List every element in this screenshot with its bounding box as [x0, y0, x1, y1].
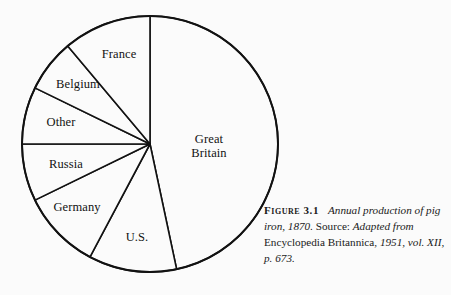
figure-caption: Figure 3.1Annual production of pig iron,… [264, 203, 448, 267]
pie-slice-label: France [102, 47, 137, 61]
figure-container: Great BritainU.S.GermanyRussiaOtherBelgi… [0, 0, 451, 295]
pie-slice-label: Other [47, 115, 76, 129]
caption-source-publication: Encyclopedia Britannica, [264, 236, 380, 248]
pie-slice-group [22, 16, 278, 272]
pie-slice-label: Great Britain [191, 132, 226, 160]
pie-slice-label: Germany [53, 200, 100, 214]
caption-source-adapted-from: Adapted from [353, 220, 414, 232]
figure-number-label: Figure 3.1 [264, 204, 319, 216]
pie-slice-label: U.S. [126, 230, 149, 244]
pie-slice-label: Russia [49, 157, 83, 171]
pie-slice-label: Belgium [56, 77, 100, 91]
caption-source-word: Source: [313, 220, 353, 232]
